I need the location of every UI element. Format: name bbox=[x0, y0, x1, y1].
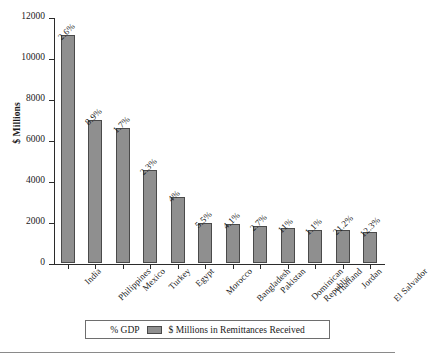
y-axis-tick: 0 bbox=[49, 264, 54, 265]
x-axis-label: Morocco bbox=[224, 266, 255, 297]
y-axis-tick-label: 2000 bbox=[26, 216, 45, 226]
y-axis-line bbox=[54, 18, 55, 265]
y-axis-tick-label: 0 bbox=[40, 257, 45, 267]
x-axis-line bbox=[54, 264, 385, 265]
y-axis-tick-label: 10000 bbox=[21, 52, 45, 62]
legend-swatch-icon bbox=[147, 326, 162, 334]
y-axis-tick-label: 4000 bbox=[26, 175, 45, 185]
plot-area: 0200040006000800010000120002.6%8.9%1.7%2… bbox=[54, 18, 384, 264]
x-axis-labels: IndiaPhilippinesMexicoTurkeyEgyptMorocco… bbox=[54, 266, 389, 326]
bar[interactable] bbox=[88, 120, 102, 264]
y-axis-tick: 12000 bbox=[49, 18, 54, 19]
y-axis-tick: 8000 bbox=[49, 100, 54, 101]
y-axis-tick-label: 12000 bbox=[21, 11, 45, 21]
y-axis-tick-label: 6000 bbox=[26, 134, 45, 144]
y-axis-tick: 4000 bbox=[49, 182, 54, 183]
x-axis-label: El Salvador bbox=[392, 266, 430, 304]
chart-legend: % GDP $ Millions in Remittances Received bbox=[85, 320, 330, 339]
bar[interactable] bbox=[171, 197, 185, 263]
y-axis-tick-label: 8000 bbox=[26, 93, 45, 103]
y-axis-tick: 6000 bbox=[49, 141, 54, 142]
x-axis-label: Turkey bbox=[167, 266, 193, 292]
bar[interactable] bbox=[143, 170, 157, 263]
legend-series-label: $ Millions in Remittances Received bbox=[169, 325, 305, 335]
x-axis-label: India bbox=[82, 266, 103, 287]
y-axis-title: $ Millions bbox=[12, 83, 22, 163]
legend-gdp-label: % GDP bbox=[110, 325, 139, 335]
x-axis-label: Jordan bbox=[359, 266, 383, 290]
y-axis-tick: 2000 bbox=[49, 223, 54, 224]
bar[interactable] bbox=[61, 35, 75, 263]
x-axis-label: Egypt bbox=[193, 266, 216, 289]
bar[interactable] bbox=[116, 128, 130, 263]
bottom-divider bbox=[0, 352, 395, 353]
y-axis-tick: 10000 bbox=[49, 59, 54, 60]
